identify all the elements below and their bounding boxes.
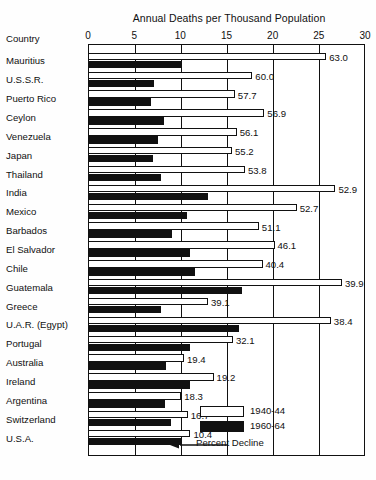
country-label-thailand: Thailand [6,168,43,179]
legend-label: 1940-44 [250,405,285,416]
value-label: 19.2 [217,372,236,383]
value-label: 55.2 [235,146,254,157]
legend-label: 1960-64 [250,420,285,431]
bar-1960-64 [88,155,153,162]
bar-1960-64 [88,98,151,105]
country-label-mauritius: Mauritius [6,55,45,66]
chart-row: 52.9 [88,183,365,202]
chart-row: 38.4 [88,315,365,334]
bar-1940-44 [88,241,275,248]
chart-row: 55.2 [88,145,365,164]
bar-1940-44 [88,128,237,135]
country-label-australia: Australia [6,357,43,368]
value-label: 39.9 [345,278,364,289]
legend-item: 1960-64 [200,420,322,433]
bar-1960-64 [88,287,242,294]
value-label: 52.9 [338,183,357,194]
x-tick-label-25: 25 [313,30,324,41]
x-tick-label-30: 30 [359,30,370,41]
bar-1960-64 [88,381,190,388]
bar-1960-64 [88,306,161,313]
value-label: 53.8 [248,164,267,175]
bar-1940-44 [88,430,190,437]
chart-row: 51.1 [88,221,365,240]
bar-1960-64 [88,362,166,369]
bars-layer: 63.060.057.756.956.155.253.852.952.751.1… [88,44,365,456]
country-label-portugal: Portugal [6,338,42,349]
bar-1960-64 [88,117,164,124]
bar-1960-64 [88,268,195,275]
country-label-guatemala: Guatemala [6,281,53,292]
bar-1960-64 [88,61,182,68]
legend-item: 1940-44 [200,405,322,418]
value-label: 63.0 [329,51,348,62]
bar-1940-44 [88,317,331,324]
bar-1940-44 [88,147,232,154]
value-label: 56.9 [267,108,286,119]
bar-1940-44 [88,185,335,192]
bar-1960-64 [88,174,161,181]
value-label: 57.7 [238,89,257,100]
percent-decline-annotation: Percent Decline [196,437,264,448]
bar-1960-64 [88,193,208,200]
country-label-greece: Greece [6,300,37,311]
legend: 1940-441960-64 [200,405,322,435]
bar-1940-44 [88,336,233,343]
country-label-puerto-rico: Puerto Rico [6,93,56,104]
bar-1960-64 [88,249,190,256]
country-label-barbados: Barbados [6,225,47,236]
bar-1940-44 [88,298,208,305]
bar-1960-64 [88,419,171,426]
country-label-u-a-r-egypt: U.A.R. (Egypt) [6,319,68,330]
value-label: 19.4 [187,353,206,364]
chart-row: 52.7 [88,202,365,221]
chart-row: 56.9 [88,108,365,127]
value-label: 18.3 [184,391,203,402]
country-label-mexico: Mexico [6,206,36,217]
country-label-switzerland: Switzerland [6,413,56,424]
bar-1940-44 [88,260,263,267]
bar-1940-44 [88,109,264,116]
bar-1960-64 [88,400,165,407]
bar-1960-64 [88,136,158,143]
country-label-u-s-s-r: U.S.S.R. [6,74,43,85]
chart-row: 32.1 [88,334,365,353]
chart-container: Annual Deaths per Thousand Population 05… [0,0,376,480]
legend-swatch-1960-64 [200,421,244,432]
bar-1940-44 [88,166,245,173]
legend-swatch-1940-44 [200,406,244,417]
country-label-ireland: Ireland [6,376,35,387]
country-label-india: India [6,187,27,198]
chart-row: 39.1 [88,296,365,315]
bar-1960-64 [88,438,182,445]
value-label: 32.1 [236,334,255,345]
country-label-chile: Chile [6,262,28,273]
country-label-argentina: Argentina [6,394,47,405]
category-axis-title: Country [6,33,40,44]
value-label: 52.7 [300,202,319,213]
value-label: 46.1 [278,240,297,251]
bar-1940-44 [88,90,235,97]
chart-row: 39.9 [88,277,365,296]
bar-1940-44 [88,204,297,211]
country-label-el-salvador: El Salvador [6,244,55,255]
bar-1940-44 [88,222,259,229]
chart-row: 53.8 [88,164,365,183]
bar-1940-44 [88,373,214,380]
x-tick-label-15: 15 [221,30,232,41]
bar-1960-64 [88,80,154,87]
x-tick-label-5: 5 [131,30,137,41]
x-tick-label-0: 0 [85,30,91,41]
value-label: 38.4 [334,315,353,326]
country-label-u-s-a: U.S.A. [6,432,34,443]
x-axis: 051015202530 [88,30,365,44]
value-label: 56.1 [240,127,259,138]
bar-1960-64 [88,344,190,351]
bar-1940-44 [88,392,181,399]
x-tick-label-10: 10 [175,30,186,41]
value-label: 40.4 [266,259,285,270]
value-label: 60.0 [255,70,274,81]
country-label-venezuela: Venezuela [6,130,51,141]
bar-1940-44 [88,72,252,79]
chart-row: 19.2 [88,372,365,391]
